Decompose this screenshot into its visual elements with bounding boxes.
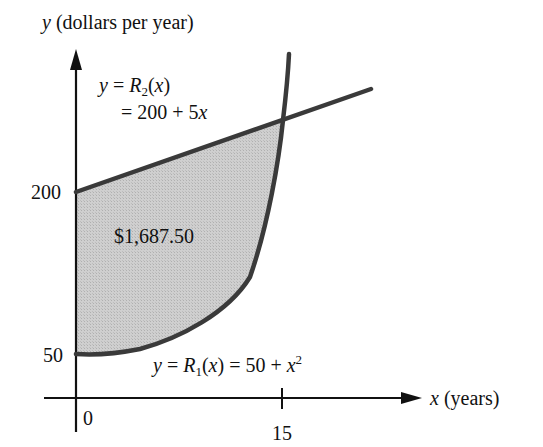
area-value-label: $1,687.50 <box>114 225 194 247</box>
r2-equation-line1: y = R2(x) <box>97 74 170 99</box>
y-axis-label: y (dollars per year) <box>40 11 194 34</box>
chart: y (dollars per year) x (years) 200 50 0 … <box>0 0 543 447</box>
x-axis-arrow-icon <box>401 392 422 404</box>
x-axis-label: x (years) <box>429 387 499 410</box>
y-tick-label-50: 50 <box>43 344 63 366</box>
r1-equation-label: y = R1(x) = 50 + x2 <box>151 352 302 379</box>
x-tick-label-15: 15 <box>272 422 292 444</box>
y-axis-arrow-icon <box>70 49 82 70</box>
y-tick-label-200: 200 <box>31 181 61 203</box>
x-tick-label-0: 0 <box>83 407 93 429</box>
r2-equation-line2: = 200 + 5x <box>121 101 208 123</box>
